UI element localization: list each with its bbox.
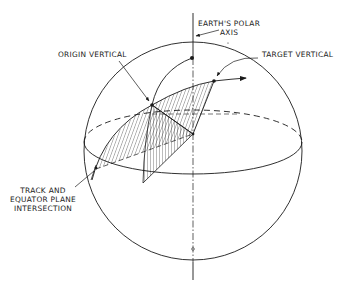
track-intersection-label: TRACK AND EQUATOR PLANE INTERSECTION xyxy=(10,186,76,213)
polar-axis-label: EARTH'S POLAR AXIS xyxy=(198,19,260,37)
small-tick-mark xyxy=(227,42,228,43)
equator-center-point xyxy=(192,133,195,136)
origin-vertical-leader xyxy=(119,61,149,101)
earth-sphere-diagram: EARTH'S POLAR AXIS ORIGIN VERTICAL TARGE… xyxy=(0,0,347,287)
north-pole-point xyxy=(190,56,194,60)
target-vertical-leader xyxy=(217,58,258,76)
origin-vertical-label: ORIGIN VERTICAL xyxy=(58,50,127,59)
target-vertical-label: TARGET VERTICAL xyxy=(262,50,333,59)
origin-point xyxy=(150,103,154,107)
target-point xyxy=(212,79,216,83)
